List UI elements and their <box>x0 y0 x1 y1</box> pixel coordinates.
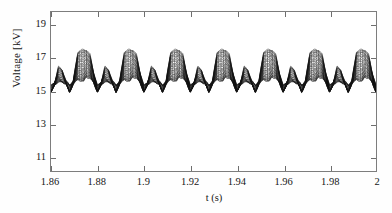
x-tick-label: 1.98 <box>307 176 353 187</box>
x-tick-label: 1.96 <box>261 176 307 187</box>
figure: Voltage [kV] 1113151719 1.861.881.91.921… <box>0 0 392 213</box>
x-tick-label: 1.9 <box>120 176 166 187</box>
x-tick-label: 1.86 <box>27 176 73 187</box>
x-tick-label: 1.88 <box>74 176 120 187</box>
x-axis-tick-labels: 1.861.881.91.921.941.961.982 <box>0 0 392 213</box>
x-tick-label: 2 <box>354 176 392 187</box>
x-tick-label: 1.92 <box>167 176 213 187</box>
x-tick-label: 1.94 <box>214 176 260 187</box>
x-axis-title: t (s) <box>50 192 378 203</box>
